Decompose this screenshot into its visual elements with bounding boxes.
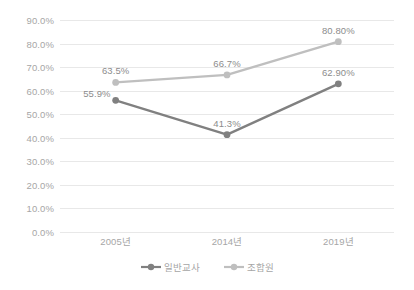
- line-chart: 0.0%10.0%20.0%30.0%40.0%50.0%60.0%70.0%8…: [0, 0, 414, 290]
- y-tick-label: 10.0%: [27, 203, 54, 214]
- y-tick-label: 20.0%: [27, 179, 54, 190]
- legend-label: 조합원: [247, 260, 274, 274]
- data-point-label: 62.90%: [322, 67, 355, 78]
- y-tick-label: 60.0%: [27, 85, 54, 96]
- legend-item-1[interactable]: 일반교사: [140, 260, 200, 274]
- x-tick-label: 2005년: [100, 234, 131, 248]
- y-tick-label: 50.0%: [27, 109, 54, 120]
- gridline: [60, 232, 394, 233]
- y-tick-label: 40.0%: [27, 132, 54, 143]
- y-tick-label: 0.0%: [32, 227, 54, 238]
- chart-legend: 일반교사조합원: [0, 258, 414, 276]
- data-point-marker: [335, 80, 342, 87]
- plot-area: 55.9%41.3%62.90%63.5%66.7%80.80%: [60, 20, 394, 232]
- x-tick-label: 2019년: [323, 234, 354, 248]
- x-axis: 2005년2014년2019년: [60, 234, 394, 252]
- y-tick-label: 70.0%: [27, 62, 54, 73]
- x-tick-label: 2014년: [212, 234, 243, 248]
- y-tick-label: 80.0%: [27, 38, 54, 49]
- data-point-label: 80.80%: [322, 25, 355, 36]
- legend-label: 일반교사: [164, 260, 200, 274]
- data-point-marker: [224, 71, 231, 78]
- data-point-marker: [112, 97, 119, 104]
- data-point-marker: [224, 131, 231, 138]
- data-point-marker: [335, 38, 342, 45]
- data-point-label: 63.5%: [102, 65, 129, 76]
- data-point-label: 55.9%: [83, 88, 110, 99]
- data-point-label: 41.3%: [213, 118, 240, 129]
- legend-item-2[interactable]: 조합원: [223, 260, 274, 274]
- legend-marker-icon: [223, 262, 245, 272]
- data-point-label: 66.7%: [213, 58, 240, 69]
- y-axis: 0.0%10.0%20.0%30.0%40.0%50.0%60.0%70.0%8…: [0, 20, 54, 232]
- data-point-marker: [112, 79, 119, 86]
- y-tick-label: 30.0%: [27, 156, 54, 167]
- y-tick-label: 90.0%: [27, 15, 54, 26]
- legend-marker-icon: [140, 262, 162, 272]
